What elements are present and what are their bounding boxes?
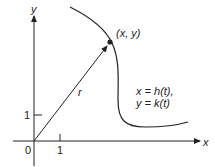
x-axis-label: x [203,137,209,148]
equation-line-2: y = k(t) [136,98,170,109]
vector-label: r [78,87,82,98]
position-vector [34,46,107,141]
y-tick-label: 1 [24,110,30,121]
equation-line-1: x = h(t), [136,86,174,97]
x-tick-label: 1 [57,145,63,156]
parametric-curve [70,7,188,127]
origin-label: 0 [25,145,31,156]
point-label: (x, y) [116,28,140,39]
diagram-canvas [0,0,215,167]
y-axis-label: y [31,4,37,15]
point-marker [107,39,112,44]
